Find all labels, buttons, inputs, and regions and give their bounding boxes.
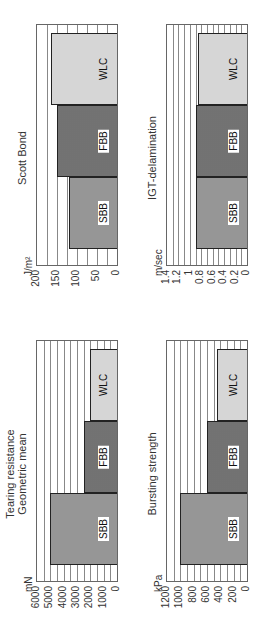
y-tick-label: 4000 (58, 586, 68, 620)
y-tick-label: 1000 (174, 586, 184, 620)
gridline (47, 25, 48, 265)
bar-fbb: FBB (57, 105, 117, 177)
y-tick-label: 0.4 (218, 270, 228, 304)
y-tick-label: 0.2 (230, 270, 240, 304)
y-tick-label: 200 (31, 270, 41, 304)
plot-area: SBBFBBWLC (166, 340, 248, 582)
gridline (184, 25, 185, 265)
gridline (178, 25, 179, 265)
gridline (190, 25, 191, 265)
y-tick-label: 5000 (44, 586, 54, 620)
bar-fbb: FBB (207, 421, 247, 493)
gridline (174, 341, 175, 581)
bar-sbb: SBB (69, 177, 117, 249)
bar-label: SBB (228, 201, 239, 225)
y-tick-label: 1.4 (161, 270, 171, 304)
bar-fbb: FBB (196, 105, 247, 177)
bar-label: WLC (228, 56, 239, 82)
y-tick-label: 0 (241, 586, 251, 620)
y-tick-label: 0.8 (195, 270, 205, 304)
y-tick-label: 100 (71, 270, 81, 304)
gridline (44, 341, 45, 581)
chart-scott-bond: Scott BondJ/m²SBBFBBWLC050100150200 (0, 0, 130, 316)
chart-tearing-resistance: Tearing resistanceGeometric meanmNSBBFBB… (0, 316, 130, 632)
bar-wlc: WLC (217, 349, 247, 421)
bar-wlc: WLC (51, 33, 117, 105)
y-tick-label: 1.2 (172, 270, 182, 304)
y-tick-label: 1 (184, 270, 194, 304)
y-tick-label: 800 (188, 586, 198, 620)
bar-label: WLC (228, 372, 239, 398)
y-tick-label: 0.6 (207, 270, 217, 304)
bar-label: FBB (98, 129, 109, 152)
bar-label: FBB (98, 445, 109, 468)
bar-wlc: WLC (90, 349, 117, 421)
bar-label: SBB (98, 517, 109, 541)
bar-label: FBB (228, 445, 239, 468)
y-tick-label: 2000 (84, 586, 94, 620)
bar-label: WLC (98, 372, 109, 398)
bar-label: SBB (98, 201, 109, 225)
y-tick-label: 200 (228, 586, 238, 620)
y-tick-label: 150 (51, 270, 61, 304)
y-tick-label: 50 (91, 270, 101, 304)
bar-wlc: WLC (198, 33, 247, 105)
plot-area: SBBFBBWLC (36, 24, 118, 266)
y-tick-label: 0 (111, 586, 121, 620)
bar-label: WLC (98, 56, 109, 82)
bar-label: FBB (228, 129, 239, 152)
bar-sbb: SBB (196, 177, 247, 249)
chart-igt-delamination: IGT-delaminationm/secSBBFBBWLC00.20.40.6… (130, 0, 260, 316)
bar-sbb: SBB (180, 493, 247, 565)
gridline (173, 25, 174, 265)
y-tick-label: 400 (214, 586, 224, 620)
y-tick-label: 1000 (98, 586, 108, 620)
bar-sbb: SBB (50, 493, 117, 565)
y-tick-label: 0 (241, 270, 251, 304)
chart-bursting-strength: Bursting strengthkPaSBBFBBWLC02004006008… (130, 316, 260, 632)
y-tick-label: 0 (111, 270, 121, 304)
y-tick-label: 3000 (71, 586, 81, 620)
chart-title-line: Tearing resistance (4, 316, 16, 632)
bar-label: SBB (228, 517, 239, 541)
y-tick-label: 600 (201, 586, 211, 620)
y-tick-label: 1200 (161, 586, 171, 620)
bar-fbb: FBB (84, 421, 117, 493)
y-tick-label: 6000 (31, 586, 41, 620)
plot-area: SBBFBBWLC (166, 24, 248, 266)
figure-canvas: Tearing resistanceGeometric meanmNSBBFBB… (0, 0, 260, 632)
plot-area: SBBFBBWLC (36, 340, 118, 582)
